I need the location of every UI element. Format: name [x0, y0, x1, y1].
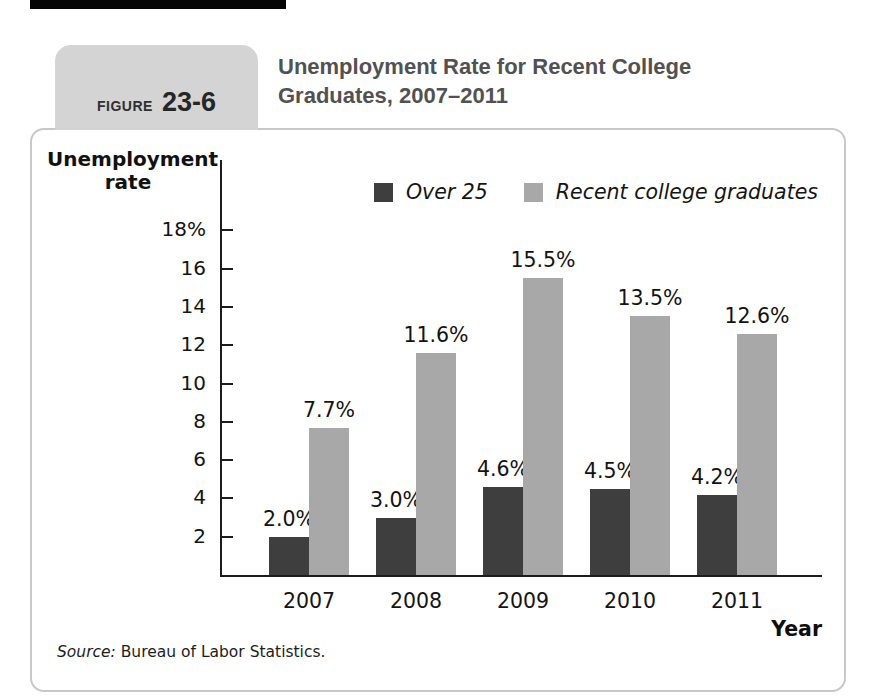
x-tick-label: 2011 — [685, 589, 789, 613]
y-tick-mark — [222, 536, 233, 538]
y-tick-mark — [222, 306, 233, 308]
bar-value-label: 7.7% — [274, 398, 384, 422]
figure-label-prefix: FIGURE — [97, 98, 153, 114]
legend-swatch-recent-college-graduates — [524, 183, 543, 202]
y-tick-label: 16 — [142, 256, 206, 280]
x-tick-label: 2008 — [364, 589, 468, 613]
y-tick-label: 18% — [142, 217, 206, 241]
y-tick-label: 14 — [142, 294, 206, 318]
source-text: Bureau of Labor Statistics. — [116, 643, 326, 661]
y-tick-label: 8 — [142, 409, 206, 433]
legend-label: Over 25 — [406, 180, 488, 204]
x-tick-label: 2007 — [257, 589, 361, 613]
y-tick-label: 10 — [142, 371, 206, 395]
legend-swatch-over-25 — [374, 183, 393, 202]
y-tick-mark — [222, 268, 233, 270]
bar-chart: Unemployment rate Over 25Recent college … — [32, 130, 844, 690]
figure-title-line2: Graduates, 2007–2011 — [278, 81, 818, 110]
y-axis-line — [220, 160, 222, 577]
y-tick-mark — [222, 229, 233, 231]
legend-label: Recent college graduates — [556, 180, 818, 204]
bar-value-label: 13.5% — [595, 286, 705, 310]
bar-value-label: 15.5% — [488, 248, 598, 272]
bar-over-25-2010 — [590, 489, 630, 575]
bar-recent-college-graduates-2009 — [523, 278, 563, 575]
page: FIGURE 23-6 Unemployment Rate for Recent… — [0, 0, 876, 700]
x-tick-label: 2010 — [578, 589, 682, 613]
bar-recent-college-graduates-2010 — [630, 316, 670, 575]
chart-panel: Unemployment rate Over 25Recent college … — [30, 128, 846, 692]
source-note: Source: Bureau of Labor Statistics. — [57, 643, 325, 661]
source-prefix: Source: — [57, 643, 116, 661]
y-tick-mark — [222, 344, 233, 346]
bar-value-label: 11.6% — [381, 323, 491, 347]
y-tick-label: 2 — [142, 524, 206, 548]
y-tick-mark — [222, 497, 233, 499]
legend-item: Recent college graduates — [524, 180, 818, 204]
y-tick-label: 6 — [142, 447, 206, 471]
x-axis-line — [220, 575, 822, 577]
bar-over-25-2009 — [483, 487, 523, 575]
y-axis-title: Unemployment rate — [47, 148, 209, 194]
scan-artifact-bar — [30, 0, 286, 9]
bar-over-25-2008 — [376, 518, 416, 575]
chart-legend: Over 25Recent college graduates — [374, 180, 818, 204]
figure-title: Unemployment Rate for Recent College Gra… — [278, 52, 818, 110]
bar-value-label: 12.6% — [702, 304, 812, 328]
x-tick-label: 2009 — [471, 589, 575, 613]
y-tick-mark — [222, 459, 233, 461]
bar-over-25-2007 — [269, 537, 309, 575]
y-tick-mark — [222, 421, 233, 423]
bar-over-25-2011 — [697, 495, 737, 575]
legend-item: Over 25 — [374, 180, 488, 204]
y-axis-title-line1: Unemployment — [47, 148, 209, 171]
y-tick-label: 12 — [142, 332, 206, 356]
x-axis-title: Year — [720, 617, 822, 641]
y-axis-title-line2: rate — [47, 171, 209, 194]
figure-label-number: 23-6 — [162, 87, 216, 118]
figure-label-tab: FIGURE 23-6 — [55, 45, 258, 130]
y-tick-mark — [222, 383, 233, 385]
y-tick-label: 4 — [142, 485, 206, 509]
bar-recent-college-graduates-2011 — [737, 334, 777, 575]
figure-title-line1: Unemployment Rate for Recent College — [278, 52, 818, 81]
